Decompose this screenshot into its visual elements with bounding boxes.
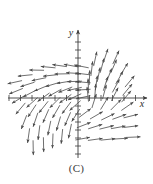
direction-field-plot: x y <box>0 0 153 184</box>
x-axis-label: x <box>139 98 145 109</box>
figure-panel: x y (C) <box>0 0 153 184</box>
figure-caption: (C) <box>0 162 153 174</box>
y-axis-label: y <box>68 27 74 38</box>
